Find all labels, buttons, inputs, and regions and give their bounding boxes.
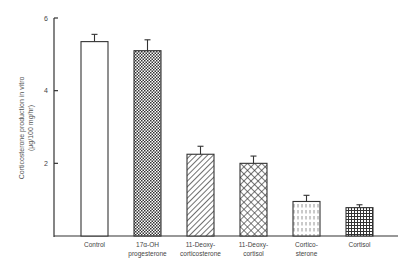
bar <box>134 51 161 236</box>
bar-group <box>293 195 320 236</box>
y-tick-label: 2 <box>44 160 48 167</box>
x-category-label: progesterone <box>128 250 167 258</box>
bar-group <box>240 156 267 236</box>
x-category-label: Cortico- <box>295 241 318 248</box>
y-axis-label-line2: (μg/100 mg/hr) <box>27 105 35 151</box>
bar <box>293 201 320 236</box>
y-tick-label: 6 <box>44 15 48 22</box>
x-category-label: corticosterone <box>180 250 221 257</box>
x-category-label: 17α-OH <box>136 241 159 248</box>
x-category-label: cortisol <box>243 250 264 257</box>
y-tick-label: 4 <box>44 87 48 94</box>
bar <box>81 42 108 236</box>
x-category-label: Control <box>84 241 106 248</box>
y-axis-label: Corticosterone production in vitro(μg/10… <box>18 77 35 180</box>
bar <box>346 208 373 236</box>
bar-group <box>346 205 373 236</box>
bar-chart: 246 Corticosterone production in vitro(μ… <box>0 0 419 273</box>
bars <box>81 34 373 236</box>
y-axis-label-line1: Corticosterone production in vitro <box>18 77 26 180</box>
x-category-label: 11-Deoxy- <box>186 241 216 249</box>
bar-group <box>81 34 108 236</box>
x-category-label: sterone <box>296 250 318 257</box>
bar <box>240 163 267 236</box>
x-axis-categories: Control17α-OHprogesterone11-Deoxy-cortic… <box>84 241 371 258</box>
x-category-label: 11-Deoxy- <box>239 241 269 249</box>
y-axis-ticks: 246 <box>44 15 58 167</box>
bar <box>187 154 214 236</box>
x-category-label: Cortisol <box>348 241 371 248</box>
bar-group <box>134 40 161 236</box>
bar-group <box>187 146 214 236</box>
